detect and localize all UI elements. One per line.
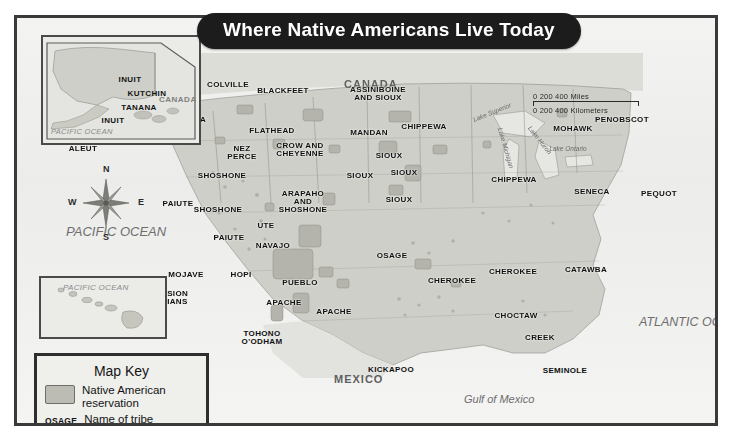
tribe-label: CATAWBA xyxy=(565,266,607,274)
tribe-label: MOJAVE xyxy=(168,271,203,279)
tribe-label: ARAPAHOANDSHOSHONE xyxy=(279,190,328,214)
map-key-tribe-abbr: OSAGE xyxy=(45,416,77,426)
tribe-label: HOPI xyxy=(231,271,252,279)
lake-label: Lake Ontario xyxy=(549,145,586,152)
tribe-label: CHIPPEWA xyxy=(401,123,446,131)
tribe-label: OSAGE xyxy=(377,252,408,260)
tribe-label: NAVAJO xyxy=(256,242,290,250)
map-key-tribe-row: OSAGE Name of tribe xyxy=(45,413,198,426)
tribe-label: CROW ANDCHEYENNE xyxy=(276,142,323,158)
tribe-label: NEZPERCE xyxy=(227,145,256,161)
hawaii-inset-ocean-label: PACIFIC OCEAN xyxy=(63,283,129,292)
tribe-label: UTE xyxy=(257,222,274,230)
tribe-label: PENOBSCOT xyxy=(595,116,649,124)
alaska-tribe-label: INUIT xyxy=(119,75,142,84)
alaska-inset-ocean-label: PACIFIC OCEAN xyxy=(51,127,113,136)
tribe-label: SIOUX xyxy=(386,196,413,204)
compass-west: W xyxy=(68,197,77,207)
compass-rose: N S E W xyxy=(69,166,143,240)
compass-east: E xyxy=(138,197,144,207)
reservation-swatch-icon xyxy=(45,385,75,404)
main-scale-miles: 0 200 400 Miles xyxy=(533,92,639,101)
tribe-label: PEQUOT xyxy=(641,190,677,198)
tribe-label: SIOUX xyxy=(347,172,374,180)
hawaii-inset-map: PACIFIC OCEAN xyxy=(39,276,167,339)
compass-north: N xyxy=(103,164,110,174)
alaska-tribe-label: INUIT xyxy=(102,116,125,125)
compass-star-icon xyxy=(82,178,130,228)
tribe-label: CHEROKEE xyxy=(489,268,537,276)
tribe-label: CHIPPEWA xyxy=(491,176,536,184)
tribe-label: SENECA xyxy=(574,188,609,196)
tribe-label: PUEBLO xyxy=(282,279,317,287)
tribe-label: CREEK xyxy=(525,334,555,342)
tribe-label: FLATHEAD xyxy=(249,127,294,135)
alaska-tribe-label: ALEUT xyxy=(69,144,98,153)
map-figure: CANADA MEXICO PACIFIC OCEAN ATLANTIC OCE… xyxy=(0,0,731,443)
map-key: Map Key Native American reservation OSAG… xyxy=(34,353,209,426)
label-mexico: MEXICO xyxy=(334,373,383,385)
tribe-label: CHEROKEE xyxy=(428,277,476,285)
alaska-tribe-label: KUTCHIN xyxy=(128,89,167,98)
tribe-label: PAIUTE xyxy=(163,200,194,208)
map-key-reservation-row: Native American reservation xyxy=(45,384,198,410)
label-gulf-of-mexico: Gulf of Mexico xyxy=(464,394,534,406)
map-key-heading: Map Key xyxy=(45,363,198,379)
tribe-label: BLACKFEET xyxy=(257,87,309,95)
tribe-label: SHOSHONE xyxy=(198,172,247,180)
tribe-label: COLVILLE xyxy=(207,81,249,89)
main-scale-kilometers: 0 200 400 Kilometers xyxy=(533,106,639,115)
atlantic-ocean-text: ATLANTIC OCEAN xyxy=(639,315,718,329)
tribe-label: APACHE xyxy=(316,308,351,316)
map-frame: CANADA MEXICO PACIFIC OCEAN ATLANTIC OCE… xyxy=(14,15,718,426)
main-scale-bar: 0 200 400 Miles 0 200 400 Kilometers xyxy=(533,92,639,115)
tribe-label: KICKAPOO xyxy=(368,366,414,374)
map-key-reservation-label: Native American reservation xyxy=(82,384,198,410)
tribe-label: SEMINOLE xyxy=(543,367,588,375)
tribe-label: MANDAN xyxy=(350,129,388,137)
alaska-tribe-label: TANANA xyxy=(121,103,157,112)
tribe-label: ASSINIBOINEAND SIOUX xyxy=(350,86,406,102)
tribe-label: MOHAWK xyxy=(553,125,592,133)
page-title: Where Native Americans Live Today xyxy=(197,13,581,49)
tribe-label: APACHE xyxy=(266,299,301,307)
tribe-label: TOHONOO'ODHAM xyxy=(242,330,283,346)
tribe-label: PAIUTE xyxy=(214,234,245,242)
alaska-inset-map: CANADA PACIFIC OCEAN INUITKUTCHINTANANAI… xyxy=(41,35,201,145)
map-key-tribe-label: Name of tribe xyxy=(84,413,153,426)
compass-south: S xyxy=(103,232,109,242)
tribe-label: SIOUX xyxy=(376,152,403,160)
label-atlantic-ocean: ATLANTIC OCEAN xyxy=(639,316,718,329)
tribe-label: SHOSHONE xyxy=(194,206,243,214)
tribe-label: SIOUX xyxy=(391,169,418,177)
tribe-label: CHOCTAW xyxy=(494,312,537,320)
